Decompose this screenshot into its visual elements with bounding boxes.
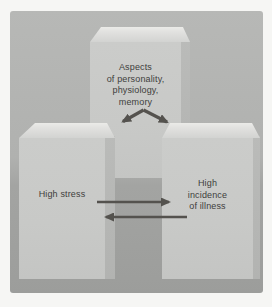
block-side-face — [105, 136, 115, 279]
high-incidence-illness-label: High incidence of illness — [162, 178, 253, 213]
block-high-stress: High stress — [19, 123, 115, 279]
label-line: of illness — [162, 201, 253, 213]
diagram-panel: Aspects of personality, physiology, memo… — [10, 11, 263, 293]
block-top-face — [162, 123, 260, 138]
block-front-face: High incidence of illness — [162, 138, 253, 279]
block-front-face: High stress — [19, 138, 105, 279]
label-line: memory — [90, 97, 181, 109]
block-top-face — [90, 27, 190, 42]
block-side-face — [253, 136, 260, 279]
block-top-face — [19, 123, 115, 138]
figure-stage: Aspects of personality, physiology, memo… — [0, 0, 272, 307]
label-line: incidence — [162, 190, 253, 202]
personality-factors-label: Aspects of personality, physiology, memo… — [90, 62, 181, 108]
label-line: of personality, — [90, 74, 181, 86]
label-line: Aspects — [90, 62, 181, 74]
label-line: physiology, — [90, 85, 181, 97]
block-high-incidence-illness: High incidence of illness — [162, 123, 260, 279]
label-line: High — [162, 178, 253, 190]
high-stress-label: High stress — [19, 189, 105, 199]
